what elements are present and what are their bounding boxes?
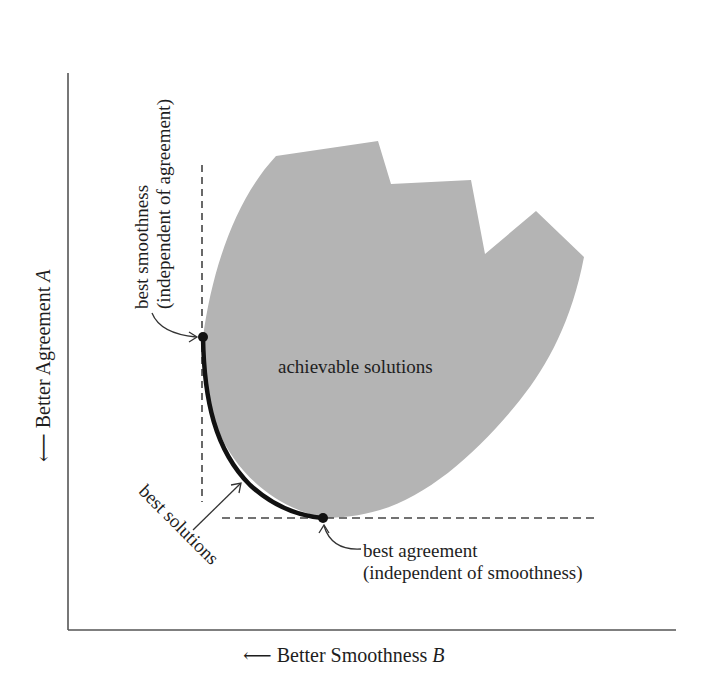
achievable-region — [203, 141, 584, 518]
best-smoothness-point — [198, 332, 208, 342]
best-agreement-subtitle: (independent of smoothness) — [363, 563, 583, 582]
best-smoothness-annotation: best smoothness (independent of agreemen… — [132, 99, 173, 309]
best-solutions-arrow-icon — [193, 483, 241, 530]
best-smoothness-subtitle: (independent of agreement) — [154, 99, 173, 309]
y-axis-symbol: A — [32, 269, 54, 281]
best-agreement-title: best agreement — [363, 541, 583, 563]
diagram-canvas — [0, 0, 712, 689]
pareto-diagram: ⟵ Better Agreement A ⟵ Better Smoothness… — [0, 0, 712, 689]
best-agreement-annotation: best agreement (independent of smoothnes… — [363, 541, 583, 582]
x-axis-label: ⟵ Better Smoothness B — [243, 645, 444, 665]
best-smoothness-arrow-icon — [152, 313, 197, 342]
x-axis-arrow-icon: ⟵ — [243, 644, 272, 666]
best-agreement-arrow-icon — [319, 525, 361, 549]
y-axis-label-text: Better Agreement — [32, 287, 54, 429]
achievable-solutions-label: achievable solutions — [278, 357, 433, 376]
x-axis-symbol: B — [432, 644, 444, 666]
y-axis-arrow-icon: ⟵ — [32, 433, 54, 462]
x-axis-label-text: Better Smoothness — [277, 644, 428, 666]
best-smoothness-title: best smoothness — [132, 99, 154, 309]
best-agreement-point — [318, 513, 328, 523]
y-axis-label: ⟵ Better Agreement A — [33, 269, 53, 462]
